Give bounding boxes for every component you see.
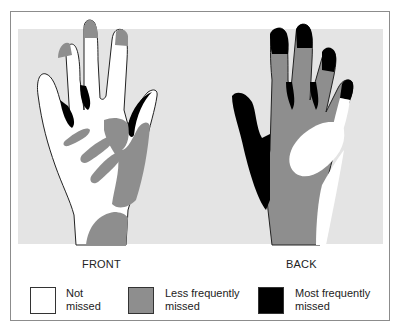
front-fingertip-ring [115, 29, 128, 46]
back-hand [232, 24, 353, 245]
legend-label-not-missed: Not missed [66, 287, 101, 313]
back-fingertip-ring [322, 48, 336, 73]
legend-label-most-frequently-missed: Most frequently missed [295, 287, 370, 313]
front-hand [37, 20, 157, 245]
back-thumb-black [232, 93, 270, 210]
legend-swatch-not-missed [30, 287, 56, 314]
back-fingertip-index [270, 28, 289, 54]
back-caption: BACK [286, 258, 317, 270]
hands-illustration [0, 0, 402, 336]
legend-label-less-frequently-missed: Less frequently missed [165, 287, 240, 313]
front-fingertip-middle [84, 20, 98, 38]
legend-swatch-most-frequently-missed [258, 287, 284, 314]
back-fingertip-middle [296, 24, 313, 48]
front-caption: FRONT [82, 258, 121, 270]
legend-swatch-less-frequently-missed [128, 287, 154, 314]
